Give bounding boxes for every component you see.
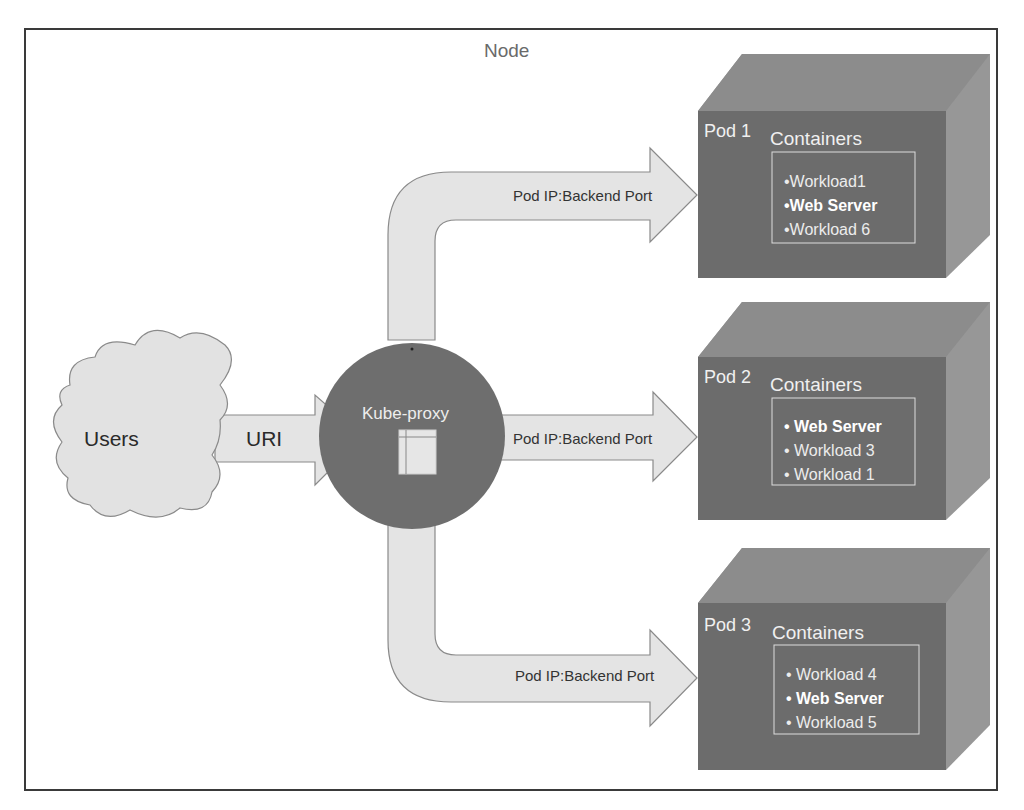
pod3-workload-2: • Web Server [786,687,884,711]
route-label-pod3: Pod IP:Backend Port [515,667,654,684]
pod2-workload-3: • Workload 1 [784,463,875,487]
pod2-name: Pod 2 [704,367,751,388]
pod2-workload-2: • Workload 3 [784,439,875,463]
pod1-workload-2: •Web Server [784,194,877,218]
pod2-workload-1: • Web Server [784,415,882,439]
users-cloud [54,330,232,517]
users-label: Users [84,427,139,451]
window-icon [399,430,436,474]
diagram-canvas: Node Users URI Kube-proxy Pod IP:Backend… [0,0,1024,810]
pod2-containers-label: Containers [770,374,862,396]
route-label-pod1: Pod IP:Backend Port [513,187,652,204]
pod1-containers-label: Containers [770,128,862,150]
pod3-workload-1: • Workload 4 [786,663,877,687]
pod1-name: Pod 1 [704,121,751,142]
pod3-name: Pod 3 [704,615,751,636]
node-title: Node [484,40,529,62]
pod3-workload-3: • Workload 5 [786,711,877,735]
pod3-containers-label: Containers [772,622,864,644]
uri-label: URI [246,427,282,451]
pod1-cube [698,54,990,278]
route-label-pod2: Pod IP:Backend Port [513,430,652,447]
route-arrow-pod1 [388,148,697,340]
dot-marker [411,348,414,351]
pod3-cube [698,548,990,770]
kube-proxy-label: Kube-proxy [362,404,449,424]
pod2-cube [698,302,990,520]
pod1-workload-1: •Workload1 [784,170,866,194]
route-arrow-pod3 [388,520,697,726]
pod1-workload-3: •Workload 6 [784,218,870,242]
